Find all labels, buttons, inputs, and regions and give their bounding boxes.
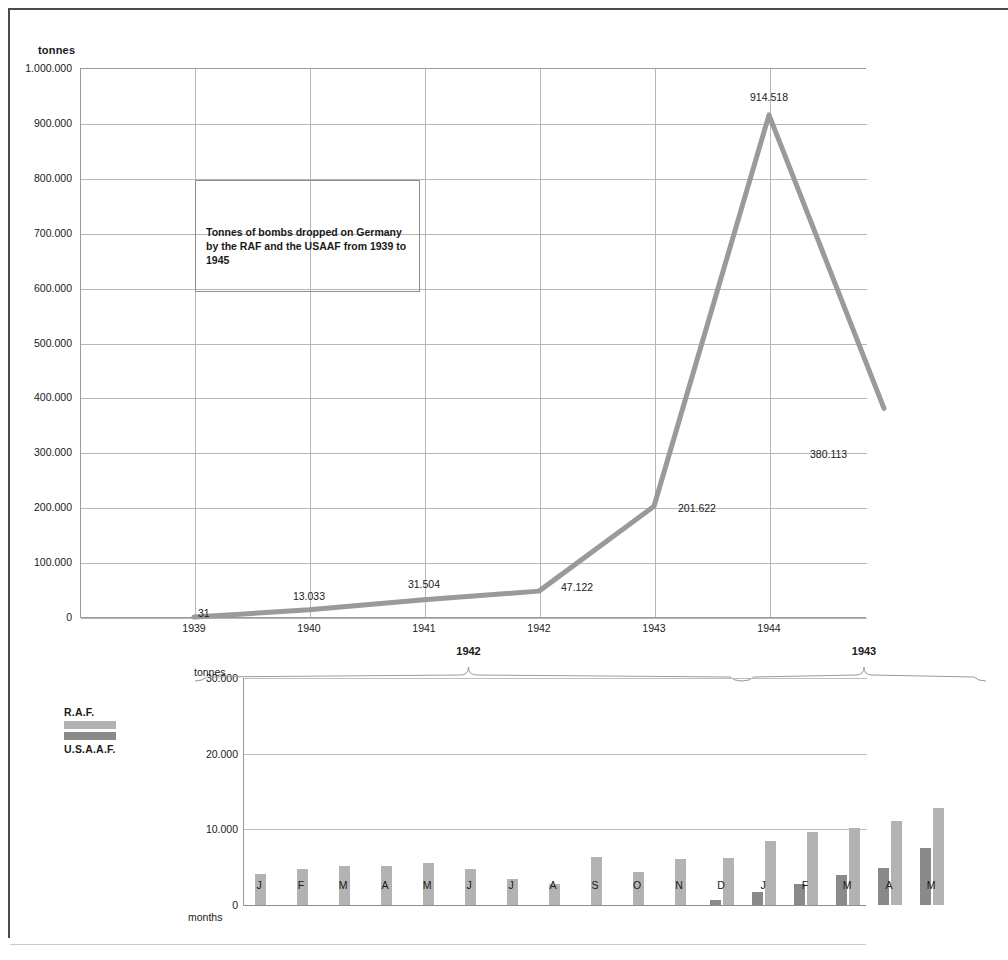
bar-raf bbox=[891, 821, 902, 905]
bar-chart-month-label: M bbox=[423, 879, 432, 891]
gridline-horizontal bbox=[244, 754, 867, 755]
bar-chart-month-label: J bbox=[760, 879, 765, 891]
bar-chart: tonnes months 30.00020.00010.0000 JFMAMJ… bbox=[0, 645, 866, 960]
gridline-horizontal bbox=[244, 678, 867, 679]
bar-chart-month-label: J bbox=[466, 879, 471, 891]
line-chart-series bbox=[80, 68, 866, 617]
line-chart-point-label: 13.033 bbox=[293, 590, 325, 602]
line-chart-y-axis: 1.000.000900.000800.000700.000600.000500… bbox=[0, 0, 72, 645]
line-chart-x-tick: 1942 bbox=[527, 622, 550, 634]
line-chart-x-tick: 1943 bbox=[642, 622, 665, 634]
bar-usaaf bbox=[752, 892, 763, 905]
line-chart: tonnes 1.000.000900.000800.000700.000600… bbox=[0, 0, 866, 645]
bar-chart-y-tick: 10.000 bbox=[174, 823, 238, 835]
bar-raf bbox=[807, 832, 818, 905]
bar-chart-y-tick: 0 bbox=[174, 899, 238, 911]
line-chart-y-tick: 500.000 bbox=[4, 337, 72, 349]
line-chart-point-label: 31.504 bbox=[408, 578, 440, 590]
bar-chart-month-label: M bbox=[843, 879, 852, 891]
line-chart-x-tick: 1941 bbox=[412, 622, 435, 634]
bar-chart-y-tick: 20.000 bbox=[174, 748, 238, 760]
line-chart-y-tick: 0 bbox=[4, 611, 72, 623]
bar-chart-month-label: A bbox=[885, 879, 892, 891]
bar-chart-y-axis: 30.00020.00010.0000 bbox=[170, 645, 238, 960]
line-chart-y-tick: 600.000 bbox=[4, 282, 72, 294]
line-chart-y-tick: 400.000 bbox=[4, 391, 72, 403]
line-chart-y-tick: 300.000 bbox=[4, 446, 72, 458]
line-chart-point-label: 914.518 bbox=[750, 91, 788, 103]
bar-chart-month-label: D bbox=[717, 879, 725, 891]
line-chart-y-tick: 700.000 bbox=[4, 227, 72, 239]
bar-chart-plot-area bbox=[243, 678, 866, 905]
bar-chart-month-label: M bbox=[339, 879, 348, 891]
line-chart-y-tick: 900.000 bbox=[4, 117, 72, 129]
line-chart-x-tick: 1944 bbox=[757, 622, 780, 634]
line-chart-point-label: 31 bbox=[198, 607, 210, 619]
group-year-label: 1942 bbox=[456, 645, 480, 657]
gridline-horizontal bbox=[244, 829, 867, 830]
bar-chart-month-label: O bbox=[633, 879, 641, 891]
line-chart-y-tick: 200.000 bbox=[4, 501, 72, 513]
bar-chart-month-label: A bbox=[381, 879, 388, 891]
line-chart-x-tick: 1939 bbox=[182, 622, 205, 634]
group-year-label: 1943 bbox=[852, 645, 876, 657]
bar-chart-month-label: N bbox=[675, 879, 683, 891]
bar-raf bbox=[849, 828, 860, 905]
line-chart-point-label: 47.122 bbox=[561, 581, 593, 593]
line-chart-point-label: 201.622 bbox=[678, 502, 716, 514]
bar-chart-x-axis bbox=[243, 905, 866, 906]
chart-title-box: Tonnes of bombs dropped on Germany by th… bbox=[195, 180, 420, 292]
bar-usaaf bbox=[920, 848, 931, 906]
bar-chart-month-label: S bbox=[591, 879, 598, 891]
bar-chart-month-label: J bbox=[256, 879, 261, 891]
line-chart-y-tick: 100.000 bbox=[4, 556, 72, 568]
bar-chart-month-label: F bbox=[298, 879, 304, 891]
bar-chart-month-label: M bbox=[927, 879, 936, 891]
line-chart-point-label: 380.113 bbox=[810, 448, 847, 460]
bar-chart-month-label: J bbox=[508, 879, 513, 891]
chart-title: Tonnes of bombs dropped on Germany by th… bbox=[206, 225, 414, 268]
line-chart-y-tick: 1.000.000 bbox=[4, 62, 72, 74]
bar-chart-month-label: F bbox=[802, 879, 808, 891]
line-chart-x-tick: 1940 bbox=[297, 622, 320, 634]
bar-raf bbox=[765, 841, 776, 905]
line-chart-y-tick: 800.000 bbox=[4, 172, 72, 184]
bar-chart-month-label: A bbox=[549, 879, 556, 891]
